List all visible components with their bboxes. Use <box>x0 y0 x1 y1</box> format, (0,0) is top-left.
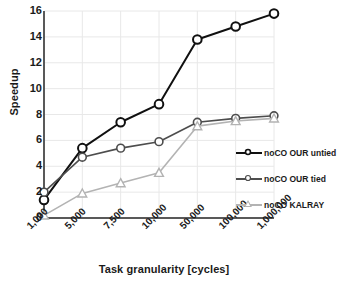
y-tick-label: 8 <box>18 109 42 120</box>
legend-label: noCO OUR tied <box>262 174 326 184</box>
speedup-line-chart: Speedup 0246810121416 1,0005,0007,50010,… <box>0 0 342 284</box>
y-tick-label: 2 <box>18 186 42 197</box>
legend-label: noCO KALRAY <box>262 200 324 210</box>
legend-label: noCO OUR untied <box>262 148 336 158</box>
y-tick-label: 14 <box>18 31 42 42</box>
chart-legend: noCO OUR untiednoCO OUR tiednoCO KALRAY <box>236 140 342 218</box>
triangle-marker-icon <box>236 199 262 211</box>
circle-marker-icon <box>236 147 262 159</box>
y-tick-label: 10 <box>18 83 42 94</box>
y-tick-label: 6 <box>18 134 42 145</box>
legend-item-noco-kalray[interactable]: noCO KALRAY <box>236 192 342 218</box>
y-tick-label: 4 <box>18 160 42 171</box>
legend-item-noco-our-tied[interactable]: noCO OUR tied <box>236 166 342 192</box>
circle-marker-icon <box>236 173 262 185</box>
legend-item-noco-our-untied[interactable]: noCO OUR untied <box>236 140 342 166</box>
y-tick-label: 16 <box>18 5 42 16</box>
y-tick-label: 12 <box>18 57 42 68</box>
y-axis-tick-labels: 0246810121416 <box>18 0 42 284</box>
x-axis-title: Task granularity [cycles] <box>44 263 284 275</box>
